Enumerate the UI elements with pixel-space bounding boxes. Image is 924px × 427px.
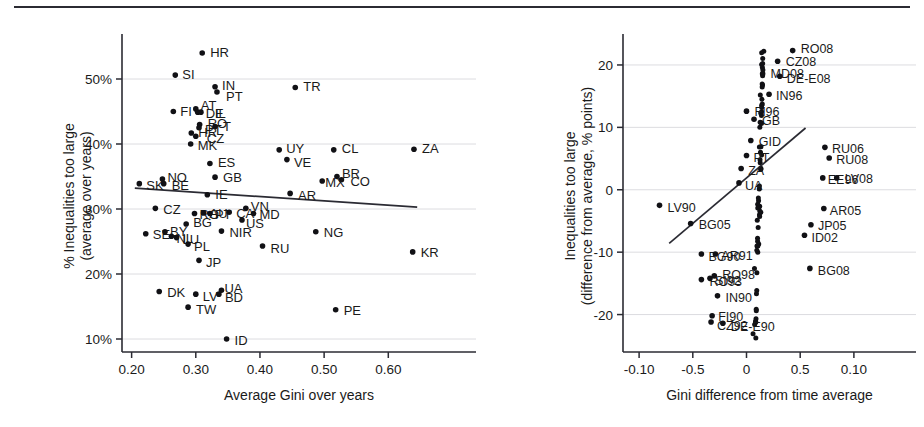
right-data-point (699, 277, 705, 283)
left-data-point (212, 174, 218, 180)
right-data-point (688, 221, 694, 227)
right-data-point (713, 251, 719, 257)
right-data-point (826, 155, 832, 161)
left-data-point (198, 109, 204, 115)
left-point-label: RU (271, 241, 290, 256)
left-x-tick-label: 0.50 (311, 362, 337, 377)
right-cloud-point (760, 84, 765, 89)
left-data-point (292, 85, 298, 91)
left-point-label: PT (226, 89, 243, 104)
left-data-point (207, 161, 213, 167)
left-data-point (205, 192, 211, 198)
left-point-label: T (223, 119, 231, 134)
right-data-point (711, 273, 717, 279)
left-point-label: IE (215, 187, 228, 202)
left-x-axis-title: Average Gini over years (224, 387, 374, 403)
right-x-axis-title: Gini difference from time average (666, 387, 873, 403)
right-data-point (760, 71, 766, 77)
right-data-point (807, 266, 813, 272)
left-point-label: GB (223, 170, 242, 185)
left-data-point (199, 50, 205, 56)
right-cloud-point (754, 288, 759, 293)
right-cloud-point (753, 335, 758, 340)
left-x-tick-label: 0.20 (118, 362, 144, 377)
left-data-point (174, 235, 180, 241)
left-data-point (287, 191, 293, 197)
right-point-label: AR05 (830, 204, 861, 218)
left-data-point (224, 336, 230, 342)
left-data-point (319, 178, 325, 184)
left-data-point (169, 234, 175, 240)
right-y-tick-label: 10 (598, 120, 613, 135)
right-point-label: IN96 (776, 89, 802, 103)
left-data-point (161, 181, 167, 187)
right-x-tick-label: -0.5 (681, 362, 704, 377)
left-data-points: HRSIINPTTRFIATDEILROPTTHRCZMKESUYVECLZAG… (137, 45, 439, 348)
left-x-tick-label: 0.60 (375, 362, 401, 377)
right-cloud-point (754, 270, 759, 275)
left-data-point (410, 249, 416, 255)
right-data-points: RO08CZ08MD08DE-E08IN96FI96GBGIDPTRU06RU0… (657, 42, 873, 334)
right-point-label: ZA (748, 164, 765, 178)
left-data-point (188, 141, 194, 147)
right-x-tick-label: -0.10 (624, 362, 655, 377)
left-point-label: NIR (229, 225, 251, 240)
left-data-point (284, 157, 290, 163)
left-point-label: MX (325, 175, 345, 190)
left-point-label: JP (206, 255, 221, 270)
left-point-label: PE (344, 303, 362, 318)
left-data-point (156, 289, 162, 295)
right-data-point (822, 145, 828, 151)
left-y-axis-title-line1: % Inequalities too large (61, 123, 77, 269)
right-data-point (766, 91, 772, 97)
left-scatter-svg: 10%20%30%40%50%0.200.300.400.500.60HRSII… (0, 0, 480, 427)
left-data-point (153, 206, 159, 212)
right-cloud-point (759, 97, 764, 102)
left-data-point (185, 241, 191, 247)
left-point-label: ES (218, 155, 236, 170)
figure-container: 10%20%30%40%50%0.200.300.400.500.60HRSII… (0, 0, 924, 427)
right-point-label: PT (754, 151, 770, 165)
left-point-label: SE (153, 227, 171, 242)
left-x-tick-label: 0.30 (183, 362, 209, 377)
right-y-tick-label: 0 (605, 183, 613, 198)
right-point-label: GID (759, 135, 781, 149)
left-point-label: CZ (163, 202, 180, 217)
left-point-label: BE (172, 178, 190, 193)
left-data-point (196, 258, 202, 264)
right-point-label: ID02 (811, 231, 837, 245)
right-point-label: LV08 (845, 172, 873, 186)
left-data-point (239, 217, 245, 223)
right-point-label: DE-E90 (731, 320, 775, 334)
right-scatter-svg: -20-1001020-0.10-0.500.50.10RO08CZ08MD08… (480, 0, 924, 427)
right-data-point (744, 153, 750, 159)
right-x-tick-label: 0.5 (791, 362, 810, 377)
left-data-point (219, 228, 225, 234)
left-data-point (185, 304, 191, 310)
right-cloud-point (758, 93, 763, 98)
right-data-point (699, 251, 705, 257)
right-cloud-point (759, 50, 764, 55)
right-fitted-trend-line (669, 128, 805, 243)
left-point-label: NG (324, 225, 344, 240)
left-point-label: ZA (422, 141, 439, 156)
right-point-label: UA (745, 179, 763, 193)
left-data-point (331, 147, 337, 153)
left-point-label: VE (294, 155, 312, 170)
left-point-label: BD (225, 290, 243, 305)
right-data-point (744, 108, 750, 114)
right-y-tick-label: 20 (598, 58, 613, 73)
right-data-point (720, 321, 726, 327)
left-data-point (313, 229, 319, 235)
right-data-point (808, 222, 814, 228)
left-point-label: MK (198, 138, 218, 153)
right-data-point (834, 175, 840, 181)
right-cloud-point (755, 206, 760, 211)
left-point-label: PL (194, 239, 210, 254)
left-point-label: HR (210, 45, 229, 60)
left-point-label: TR (303, 79, 320, 94)
right-x-tick-label: 0 (743, 362, 751, 377)
right-axes (617, 34, 916, 358)
right-point-cloud (751, 49, 767, 341)
right-cloud-point (756, 196, 761, 201)
